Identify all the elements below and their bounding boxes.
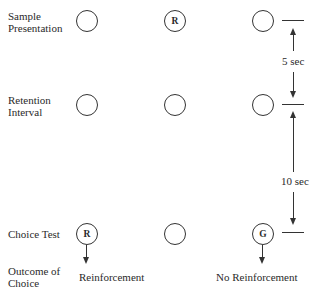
arrow-down-icon [83, 257, 89, 264]
stimulus-key-right [252, 10, 274, 32]
label-line: Presentation [8, 22, 62, 34]
stimulus-key-right [252, 94, 274, 116]
arrow-shaft [293, 192, 294, 220]
row-label-outcome: Outcome of Choice [8, 265, 60, 289]
stimulus-key-center [164, 223, 186, 245]
stimulus-key-center [164, 94, 186, 116]
stimulus-key-left: R [76, 223, 98, 245]
label-line: Interval [8, 106, 51, 118]
stimulus-key-left [76, 94, 98, 116]
time-marker-line [282, 104, 304, 105]
arrow-down-icon [259, 257, 265, 264]
stimulus-key-center: R [164, 10, 186, 32]
arrow-shaft [293, 117, 294, 172]
interval-label-10: 10 sec [281, 175, 309, 187]
row-label-retention: Retention Interval [8, 94, 51, 118]
row-label-choice: Choice Test [8, 228, 60, 240]
time-marker-line [282, 20, 304, 21]
outcome-no-reinforcement: No Reinforcement [216, 271, 298, 283]
label-line: Outcome of [8, 265, 60, 277]
label-line: Retention [8, 94, 51, 106]
label-line: Choice [8, 277, 60, 289]
arrow-shaft [293, 34, 294, 51]
row-label-sample: Sample Presentation [8, 10, 62, 34]
arrow-down-icon [290, 91, 296, 98]
stimulus-key-left [76, 10, 98, 32]
arrow-down-icon [290, 218, 296, 225]
label-line: Sample [8, 10, 62, 22]
time-marker-line [282, 232, 304, 233]
outcome-reinforcement: Reinforcement [79, 271, 144, 283]
arrow-shaft [293, 72, 294, 92]
stimulus-key-right: G [252, 223, 274, 245]
delayed-matching-diagram: Sample Presentation Retention Interval C… [0, 0, 317, 291]
interval-label-5: 5 sec [282, 55, 304, 67]
